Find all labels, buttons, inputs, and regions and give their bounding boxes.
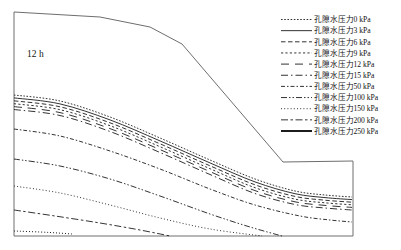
legend-item-6kpa: 孔隙水压力6 kPa [281,37,371,47]
legend-item-label: 孔隙水压力9 kPa [314,48,372,58]
legend-item-label: 孔隙水压力250 kPa [314,126,379,136]
contour-line-150kpa [14,186,262,236]
contour-line-250kpa [14,231,72,234]
legend-item-250kpa: 孔隙水压力250 kPa [281,126,379,136]
contour-line-100kpa [14,159,282,236]
legend-item-label: 孔隙水压力100 kPa [314,92,379,102]
legend-item-100kpa: 孔隙水压力100 kPa [281,92,379,102]
figure: 12 h 孔隙水压力0 kPa孔隙水压力3 kPa孔隙水压力6 kPa孔隙水压力… [0,0,401,250]
legend-item-3kpa: 孔隙水压力3 kPa [281,25,371,35]
legend-item-150kpa: 孔隙水压力150 kPa [281,103,379,113]
contour-line-3kpa [14,98,352,200]
legend-item-label: 孔隙水压力50 kPa [314,81,376,91]
contour-lines [14,95,352,236]
contour-line-200kpa [14,210,170,236]
legend-item-label: 孔隙水压力200 kPa [314,115,379,125]
contour-plot: 12 h 孔隙水压力0 kPa孔隙水压力3 kPa孔隙水压力6 kPa孔隙水压力… [0,0,401,250]
domain-outline [14,12,353,236]
legend-item-label: 孔隙水压力12 kPa [314,59,376,69]
legend-item-label: 孔隙水压力150 kPa [314,103,379,113]
legend-item-15kpa: 孔隙水压力15 kPa [281,70,375,80]
legend: 孔隙水压力0 kPa孔隙水压力3 kPa孔隙水压力6 kPa孔隙水压力9 kPa… [281,14,379,136]
legend-item-label: 孔隙水压力0 kPa [314,14,372,24]
legend-item-200kpa: 孔隙水压力200 kPa [281,115,379,125]
legend-item-9kpa: 孔隙水压力9 kPa [281,48,371,58]
legend-item-50kpa: 孔隙水压力50 kPa [281,81,375,91]
legend-item-label: 孔隙水压力6 kPa [314,37,372,47]
legend-item-12kpa: 孔隙水压力12 kPa [281,59,375,69]
legend-item-label: 孔隙水压力3 kPa [314,25,372,35]
time-annotation: 12 h [27,49,44,59]
contour-line-6kpa [14,101,352,202]
contour-line-50kpa [14,129,352,222]
contour-line-0kpa [14,95,352,197]
legend-item-0kpa: 孔隙水压力0 kPa [281,14,371,24]
legend-item-label: 孔隙水压力15 kPa [314,70,376,80]
